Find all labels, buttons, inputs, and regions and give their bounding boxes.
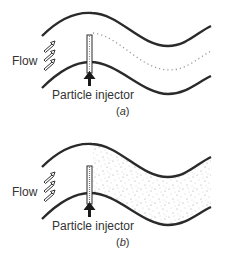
injector-tube (87, 35, 92, 73)
flow-label: Flow (12, 54, 37, 68)
panel-b: Flow Particle injector (b) (0, 131, 228, 262)
panel-caption: (b) (116, 236, 129, 248)
caption-close: ) (126, 105, 130, 117)
panel-a: Flow Particle injector (a) (0, 0, 228, 131)
injector-arrow-icon (84, 71, 96, 86)
particle-streakline (93, 33, 211, 70)
upper-wall (42, 13, 211, 46)
injector-label: Particle injector (52, 88, 134, 102)
flow-label: Flow (12, 185, 37, 199)
injector-arrow-icon (84, 202, 96, 217)
flow-arrows-icon (44, 172, 55, 202)
injector-label: Particle injector (52, 219, 134, 233)
panel-caption: (a) (116, 105, 129, 117)
caption-close: ) (126, 236, 130, 248)
flow-arrows-icon (44, 41, 55, 71)
injector-tube (87, 166, 92, 204)
